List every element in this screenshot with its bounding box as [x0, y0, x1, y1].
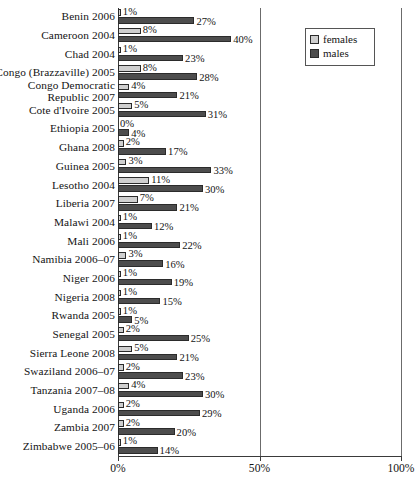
- bar-females: [118, 420, 124, 426]
- chart-row: Sierra Leone 20085%21%: [0, 344, 419, 363]
- category-label: Tanzania 2007–08: [30, 385, 115, 397]
- x-tick-100%: [401, 456, 402, 461]
- chart-row: Rwanda 20051%5%: [0, 307, 419, 326]
- legend-swatch-females: [310, 35, 319, 44]
- chart-row: Zimbabwe 2005–061%14%: [0, 438, 419, 457]
- chart-row: Nigeria 20081%15%: [0, 288, 419, 307]
- row-bars: 0%4%: [118, 120, 401, 139]
- bar-females: [118, 252, 126, 258]
- bar-males: [118, 55, 183, 61]
- bar-females: [118, 290, 121, 296]
- bar-value-label: 23%: [185, 53, 204, 64]
- bar-females: [118, 65, 141, 71]
- bar-males: [118, 260, 163, 266]
- category-label: Congo DemocraticRepublic 2007: [28, 81, 115, 104]
- row-bars: 2%29%: [118, 400, 401, 419]
- category-label: Congo (Brazzaville) 2005: [0, 68, 115, 80]
- category-label: Sierra Leone 2008: [30, 348, 115, 360]
- bar-value-label: 23%: [185, 371, 204, 382]
- bar-males: [118, 92, 177, 98]
- bar-value-label: 2%: [126, 417, 140, 428]
- bar-value-label: 2%: [126, 323, 140, 334]
- bar-value-label: 30%: [205, 184, 224, 195]
- row-bars: 4%30%: [118, 382, 401, 401]
- bar-males: [118, 316, 132, 322]
- bar-value-label: 5%: [134, 99, 148, 110]
- chart-row: Mali 20061%22%: [0, 232, 419, 251]
- category-label: Zambia 2007: [54, 423, 115, 435]
- bar-value-label: 19%: [174, 277, 193, 288]
- chart-row: Cote d'Ivoire 20055%31%: [0, 101, 419, 120]
- bar-males: [118, 428, 175, 434]
- chart-row: Uganda 20062%29%: [0, 400, 419, 419]
- bar-females: [118, 271, 121, 277]
- chart-row: Lesotho 200411%30%: [0, 176, 419, 195]
- row-bars: 2%25%: [118, 326, 401, 345]
- bar-value-label: 29%: [202, 408, 221, 419]
- bar-males: [118, 372, 183, 378]
- bar-value-label: 1%: [123, 286, 137, 297]
- chart-row: Swaziland 2006–072%23%: [0, 363, 419, 382]
- chart-row: Niger 20061%19%: [0, 270, 419, 289]
- row-bars: 5%31%: [118, 101, 401, 120]
- chart-row: Congo DemocraticRepublic 20074%21%: [0, 83, 419, 102]
- bar-females: [118, 402, 124, 408]
- bar-value-label: 33%: [213, 165, 232, 176]
- chart-legend: females males: [305, 28, 375, 66]
- bar-value-label: 3%: [128, 248, 142, 259]
- x-tick-label: 0%: [110, 462, 125, 475]
- x-tick-label: 100%: [387, 462, 414, 475]
- bar-value-label: 12%: [154, 221, 173, 232]
- bar-value-label: 1%: [123, 211, 137, 222]
- category-label: Guinea 2005: [56, 161, 115, 173]
- bar-males: [118, 129, 129, 135]
- chart-row: Ghana 20082%17%: [0, 139, 419, 158]
- bar-males: [118, 148, 166, 154]
- chart-row: Senegal 20052%25%: [0, 326, 419, 345]
- bar-value-label: 2%: [126, 361, 140, 372]
- bar-value-label: 1%: [123, 6, 137, 17]
- row-bars: 5%21%: [118, 344, 401, 363]
- category-label: Niger 2006: [63, 273, 115, 285]
- legend-item-males: males: [310, 47, 370, 60]
- bar-value-label: 30%: [205, 389, 224, 400]
- bar-value-label: 25%: [191, 333, 210, 344]
- row-bars: 1%12%: [118, 214, 401, 233]
- row-bars: 1%14%: [118, 438, 401, 457]
- chart-rows: Benin 20061%27%Cameroon 20048%40%Chad 20…: [0, 8, 419, 457]
- bar-value-label: 31%: [208, 109, 227, 120]
- bar-females: [118, 364, 124, 370]
- bar-females: [118, 196, 138, 202]
- x-tick-0%: [118, 456, 119, 461]
- row-bars: 2%20%: [118, 419, 401, 438]
- category-label: Cameroon 2004: [41, 30, 115, 42]
- category-label: Ghana 2008: [59, 142, 115, 154]
- bar-value-label: 8%: [143, 62, 157, 73]
- bar-value-label: 20%: [177, 427, 196, 438]
- category-label: Senegal 2005: [53, 329, 115, 341]
- bar-males: [118, 447, 158, 453]
- bar-value-label: 2%: [126, 398, 140, 409]
- row-bars: 7%21%: [118, 195, 401, 214]
- category-label: Lesotho 2004: [52, 180, 115, 192]
- bar-females: [118, 383, 129, 389]
- legend-item-females: females: [310, 33, 370, 46]
- bar-value-label: 1%: [123, 267, 137, 278]
- row-bars: 2%23%: [118, 363, 401, 382]
- bar-value-label: 2%: [126, 136, 140, 147]
- bar-value-label: 21%: [179, 352, 198, 363]
- bar-males: [118, 185, 203, 191]
- bar-value-label: 15%: [162, 296, 181, 307]
- bar-value-label: 11%: [151, 174, 170, 185]
- chart-row: Namibia 2006–073%16%: [0, 251, 419, 270]
- category-label: Liberia 2007: [56, 198, 115, 210]
- bar-value-label: 28%: [199, 72, 218, 83]
- bar-males: [118, 391, 203, 397]
- row-bars: 1%19%: [118, 270, 401, 289]
- x-tick-label: 50%: [249, 462, 270, 475]
- bar-value-label: 21%: [179, 90, 198, 101]
- bar-males: [118, 73, 197, 79]
- bar-males: [118, 167, 211, 173]
- bar-value-label: 1%: [123, 435, 137, 446]
- bar-value-label: 17%: [168, 146, 187, 157]
